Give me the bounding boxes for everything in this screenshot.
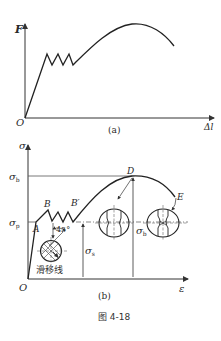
sigma-p-axis-label: σp [9,217,20,230]
panel-label-b: (b) [98,291,111,301]
stress-strain-figure: F O Δl (a) σ ε O σb σp A B B′ D E σs σb [0,0,221,341]
sigma-s-dimension-label: σs [85,245,95,257]
panel-a: F O Δl (a) [14,23,214,135]
point-b-prime-label: B′ [70,198,80,208]
sigma-b-dimension-label: σb [136,225,147,237]
fracture-specimen-right [143,205,187,241]
e-to-right-arrow [172,198,176,210]
x-axis-label-a: Δl [203,122,213,132]
d-to-middle-arrow [118,178,132,199]
stress-strain-curve [28,176,175,279]
origin-label-a: O [16,117,24,128]
point-d-label: D [126,166,134,176]
sigma-b-axis-label: σb [9,171,20,183]
point-a-label: A [32,224,40,234]
angle-45-label: 45° [56,225,70,234]
load-elongation-curve [25,24,174,118]
slip-lines-label: 滑移线 [36,264,63,275]
y-axis-label-a: F [14,23,24,36]
slip-line-specimen [37,232,68,265]
point-e-label: E [176,192,184,202]
x-axis-label-b: ε [179,283,184,294]
origin-label-b: O [19,282,27,293]
necking-specimen-middle [95,205,133,241]
y-axis-label-b: σ [19,140,27,151]
point-b-label: B [43,199,51,209]
panel-b: σ ε O σb σp A B B′ D E σs σb 45° 滑移线 [9,140,188,301]
panel-label-a: (a) [108,125,120,135]
figure-caption: 图 4-18 [98,312,131,322]
